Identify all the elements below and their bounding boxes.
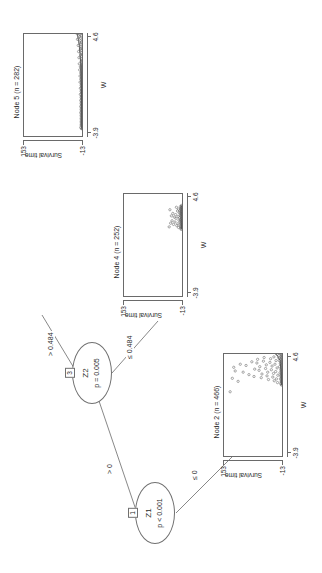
terminal-panel-node-5: Node 5 (n = 282) 153 -13 Survival time -…: [12, 21, 108, 163]
scatter-svg-node-5: [24, 33, 83, 136]
x-axis-title-node-2: W: [300, 353, 308, 457]
y-tick-label-bottom-node-4: -13: [179, 306, 186, 321]
x-axis-title-node-4: W: [200, 193, 208, 297]
edge-label-root-left: ≤ 0: [191, 469, 199, 481]
x-tick-right-node-2: [287, 356, 291, 357]
y-axis-node-4: [123, 300, 183, 301]
y-tick-top-node-4: [123, 301, 124, 305]
y-axis-title-node-2: Survival time: [214, 472, 274, 479]
plot-area-node-5: [23, 33, 83, 137]
y-axis-title-node-4: Survival time: [114, 312, 174, 319]
y-tick-label-bottom-node-2: -13: [279, 466, 286, 481]
tree-node-1-pvalue: p < 0.001: [156, 483, 164, 543]
tree-node-1-variable: Z1: [144, 483, 153, 543]
panel-title-node-2: Node 2 (n = 466): [212, 341, 221, 483]
x-tick-label-left-node-5: -3.9: [92, 127, 99, 138]
terminal-panel-node-2: Node 2 (n = 466) 153 -13 Survival time -…: [212, 341, 308, 483]
tree-plot-canvas: ≤ 0 > 0 ≤ 0.484 > 0.484 1 Z1 p < 0.001 3…: [0, 0, 322, 573]
figure-rotator: ≤ 0 > 0 ≤ 0.484 > 0.484 1 Z1 p < 0.001 3…: [0, 0, 322, 573]
x-axis-node-5: [87, 33, 88, 137]
y-tick-bottom-node-4: [182, 301, 183, 305]
panel-title-node-5: Node 5 (n = 282): [12, 21, 21, 163]
x-tick-label-left-node-2: -3.9: [292, 447, 299, 458]
x-tick-label-right-node-4: 4.6: [192, 192, 199, 201]
scatter-svg-node-2: [224, 353, 283, 456]
terminal-panel-node-4: Node 4 (n = 252) 153 -13 Survival time -…: [112, 181, 208, 323]
tree-node-1[interactable]: 1 Z1 p < 0.001: [135, 482, 175, 544]
y-tick-top-node-2: [223, 461, 224, 465]
tree-node-3-pvalue: p = 0.005: [93, 343, 101, 403]
edge-label-node3-left: ≤ 0.484: [126, 335, 134, 360]
edge-label-node3-right: > 0.484: [47, 331, 55, 357]
x-tick-label-left-node-4: -3.9: [192, 287, 199, 298]
plot-area-node-4: [123, 193, 183, 297]
x-tick-right-node-5: [87, 36, 91, 37]
x-axis-node-2: [287, 353, 288, 457]
x-axis-title-node-5: W: [100, 33, 108, 137]
y-axis-node-2: [223, 460, 283, 461]
y-axis-node-5: [23, 140, 83, 141]
panel-title-node-4: Node 4 (n = 252): [112, 181, 121, 323]
tree-node-3[interactable]: 3 Z2 p = 0.005: [72, 342, 112, 404]
y-axis-title-node-5: Survival time: [14, 152, 74, 159]
x-axis-node-4: [187, 193, 188, 297]
x-tick-label-right-node-5: 4.6: [92, 32, 99, 41]
x-tick-label-right-node-2: 4.6: [292, 352, 299, 361]
x-tick-right-node-4: [187, 196, 191, 197]
y-tick-top-node-5: [23, 141, 24, 145]
y-tick-label-bottom-node-5: -13: [79, 146, 86, 161]
edge-label-root-right: > 0: [106, 463, 114, 475]
x-tick-left-node-5: [87, 132, 91, 133]
tree-node-3-variable: Z2: [81, 343, 90, 403]
x-tick-left-node-2: [287, 452, 291, 453]
plot-area-node-2: [223, 353, 283, 457]
y-tick-bottom-node-2: [282, 461, 283, 465]
tree-node-3-id: 3: [65, 368, 75, 378]
tree-node-1-id: 1: [128, 508, 138, 518]
x-tick-left-node-4: [187, 292, 191, 293]
y-tick-bottom-node-5: [82, 141, 83, 145]
scatter-svg-node-4: [124, 193, 183, 296]
scatter-points-node-2: [229, 353, 283, 393]
